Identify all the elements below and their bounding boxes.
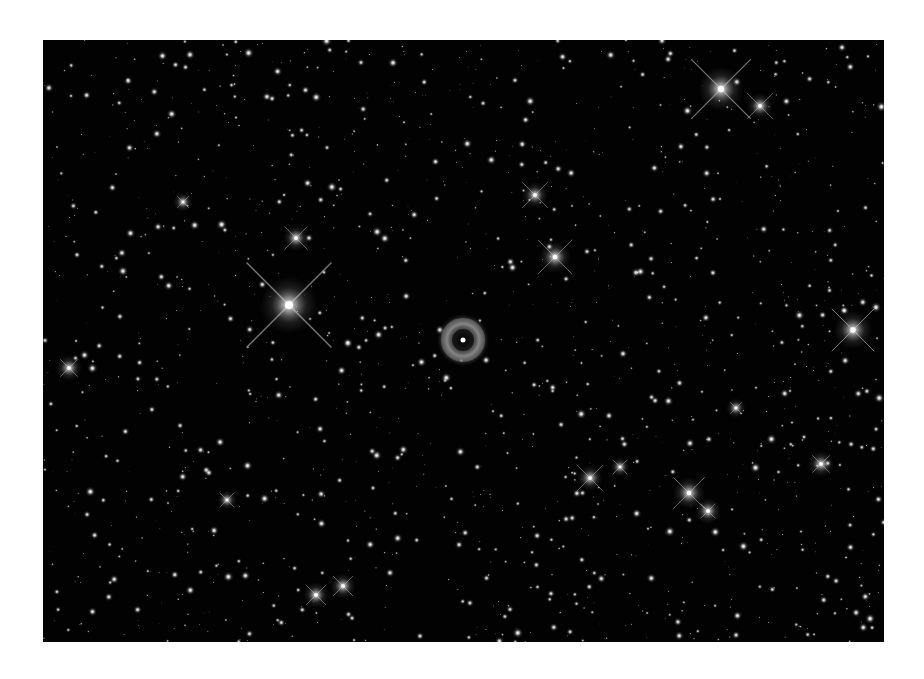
star-field-canvas (43, 40, 884, 642)
ring-nebula (437, 314, 489, 366)
star-field-image: Deep-sky star field with a small ring-sh… (43, 40, 884, 642)
